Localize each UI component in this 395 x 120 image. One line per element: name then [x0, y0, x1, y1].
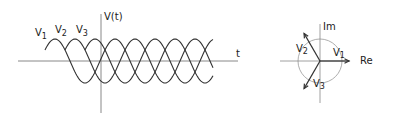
- v1-wave-label: V1: [35, 27, 47, 41]
- three-phase-diagram: V(t) t V1 V2 V3 Im Re V1 V2 V3: [0, 0, 395, 120]
- imag-axis-label: Im: [323, 21, 336, 32]
- phasor-diagram: Im Re V1 V2 V3: [280, 21, 373, 103]
- v2-phasor-label: V2: [296, 43, 308, 56]
- v3-phasor-label: V3: [313, 78, 325, 91]
- v1-phasor-label: V1: [333, 47, 345, 60]
- voltage-axis-label: V(t): [104, 11, 123, 22]
- time-axis-label: t: [236, 48, 240, 59]
- waveform-plot: V(t) t V1 V2 V3: [18, 11, 240, 113]
- waveform-labels: V1 V2 V3: [35, 24, 88, 41]
- v2-wave-label: V2: [55, 24, 67, 38]
- real-axis-label: Re: [360, 55, 373, 66]
- v3-wave-label: V3: [76, 24, 88, 38]
